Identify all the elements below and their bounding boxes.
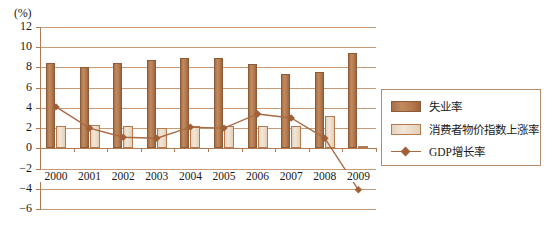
gdp-marker-2003 [153, 135, 160, 142]
x-axis-label-2009: 2009 [341, 170, 375, 182]
gdp-marker-2008 [321, 135, 328, 142]
gridline--6 [40, 209, 376, 210]
y-axis-label--2: −2 [0, 161, 32, 176]
chart-legend: 失业率 消费者物价指数上涨率 GDP增长率 [381, 89, 541, 166]
legend-label-cpi: 消费者物价指数上涨率 [429, 121, 539, 137]
legend-label-unemployment: 失业率 [429, 98, 462, 114]
gdp-marker-2005 [220, 124, 227, 131]
y-axis-label-6: 6 [0, 80, 32, 95]
legend-item-gdp: GDP增长率 [391, 143, 485, 159]
chart-container: (%) 121086420−2−4−6 20002001200220032004… [0, 0, 547, 237]
gdp-marker-2009 [355, 186, 362, 193]
gdp-marker-2007 [288, 114, 295, 121]
y-axis-label-10: 10 [0, 39, 32, 54]
y-tick--6 [36, 209, 41, 210]
x-axis-label-2008: 2008 [308, 170, 342, 182]
legend-label-gdp: GDP增长率 [429, 143, 485, 159]
gdp-marker-2000 [52, 103, 59, 110]
y-axis-label-2: 2 [0, 120, 32, 135]
y-axis-label-12: 12 [0, 19, 32, 34]
y-axis-label-4: 4 [0, 100, 32, 115]
y-axis-label--4: −4 [0, 181, 32, 196]
legend-item-unemployment: 失业率 [391, 98, 462, 114]
legend-item-cpi: 消费者物价指数上涨率 [391, 121, 539, 137]
legend-swatch-cpi-icon [391, 124, 421, 135]
x-axis-label-2005: 2005 [207, 170, 241, 182]
x-axis-label-2006: 2006 [241, 170, 275, 182]
x-axis-label-2001: 2001 [73, 170, 107, 182]
x-tick-10 [376, 148, 377, 152]
legend-marker-gdp-icon [391, 145, 421, 157]
x-axis-label-2000: 2000 [39, 170, 73, 182]
x-axis-label-2003: 2003 [140, 170, 174, 182]
x-axis-label-2004: 2004 [173, 170, 207, 182]
gdp-marker-2001 [86, 124, 93, 131]
legend-swatch-unemployment-icon [391, 101, 421, 112]
gdp-marker-2006 [254, 110, 261, 117]
y-axis-label--6: −6 [0, 201, 32, 216]
x-axis-label-2002: 2002 [106, 170, 140, 182]
y-axis-label-8: 8 [0, 59, 32, 74]
y-axis-label-0: 0 [0, 140, 32, 155]
gdp-marker-2002 [120, 134, 127, 141]
x-axis-category-labels: 2000200120022003200420052006200720082009 [40, 170, 376, 186]
x-axis-label-2007: 2007 [274, 170, 308, 182]
gdp-marker-2004 [187, 123, 194, 130]
